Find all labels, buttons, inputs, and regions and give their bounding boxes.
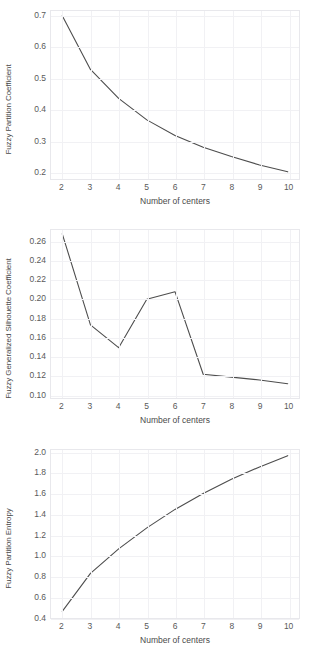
chart-panel-fuzzy-partition-entropy: Fuzzy Partition Entropy 0.40.60.81.01.21… [0, 439, 319, 658]
x-tick-label: 9 [258, 621, 263, 631]
gridline-vertical [119, 450, 120, 618]
x-tick-label: 6 [173, 401, 178, 411]
y-axis-tick-labels: 0.40.60.81.01.21.41.61.82.0 [16, 449, 48, 619]
gridline-vertical [204, 11, 205, 179]
chart-panel-fuzzy-partition-coefficient: Fuzzy Partition Coefficient 0.20.30.40.5… [0, 0, 319, 219]
gridline-vertical [261, 230, 262, 398]
gridline-vertical [148, 230, 149, 398]
y-tick-label: 0.8 [34, 571, 46, 581]
x-tick-label: 7 [201, 621, 206, 631]
y-tick-label: 0.24 [29, 255, 46, 265]
y-tick-label: 0.14 [29, 351, 46, 361]
y-tick-label: 1.0 [34, 550, 46, 560]
gridline-vertical [176, 450, 177, 618]
gridline-vertical [91, 11, 92, 179]
gridline-vertical [233, 11, 234, 179]
x-tick-label: 4 [116, 621, 121, 631]
x-tick-label: 2 [59, 621, 64, 631]
y-tick-label: 1.4 [34, 509, 46, 519]
gridline-vertical [62, 230, 63, 398]
y-tick-label: 0.3 [34, 136, 46, 146]
gridline-vertical [91, 230, 92, 398]
x-tick-label: 8 [229, 621, 234, 631]
gridline-vertical [204, 230, 205, 398]
x-tick-label: 5 [144, 621, 149, 631]
y-tick-label: 0.12 [29, 370, 46, 380]
gridline-vertical [62, 11, 63, 179]
gridline-vertical [290, 230, 291, 398]
y-axis-title: Fuzzy Generalized Silhouette Coefficient [0, 219, 16, 438]
y-tick-label: 0.16 [29, 332, 46, 342]
gridline-vertical [290, 450, 291, 618]
gridline-vertical [62, 450, 63, 618]
series-polyline [62, 455, 287, 611]
gridline-vertical [233, 230, 234, 398]
x-tick-label: 6 [173, 182, 178, 192]
y-tick-label: 0.4 [34, 613, 46, 623]
x-axis-tick-labels: 2345678910 [50, 401, 300, 415]
y-tick-label: 0.2 [34, 167, 46, 177]
x-tick-label: 2 [59, 401, 64, 411]
x-tick-label: 3 [87, 182, 92, 192]
y-tick-label: 0.10 [29, 390, 46, 400]
x-tick-label: 9 [258, 401, 263, 411]
x-tick-label: 8 [229, 401, 234, 411]
y-tick-label: 0.4 [34, 104, 46, 114]
x-tick-label: 7 [201, 182, 206, 192]
gridline-vertical [148, 450, 149, 618]
y-tick-label: 0.6 [34, 41, 46, 51]
y-tick-label: 0.18 [29, 313, 46, 323]
x-axis-title: Number of centers [50, 635, 300, 645]
figure-stacked-line-charts: Fuzzy Partition Coefficient 0.20.30.40.5… [0, 0, 319, 658]
y-tick-label: 2.0 [34, 447, 46, 457]
plot-area [50, 449, 300, 619]
gridline-vertical [176, 230, 177, 398]
x-tick-label: 10 [284, 401, 293, 411]
gridline-horizontal [51, 619, 299, 620]
gridline-vertical [261, 450, 262, 618]
x-tick-label: 4 [116, 401, 121, 411]
y-tick-label: 1.2 [34, 530, 46, 540]
gridline-vertical [261, 11, 262, 179]
x-tick-label: 10 [284, 621, 293, 631]
y-axis-title: Fuzzy Partition Entropy [0, 439, 16, 658]
chart-panel-fuzzy-generalized-silhouette-coefficient: Fuzzy Generalized Silhouette Coefficient… [0, 219, 319, 438]
y-axis-title: Fuzzy Partition Coefficient [0, 0, 16, 219]
x-tick-label: 3 [87, 621, 92, 631]
x-tick-label: 5 [144, 401, 149, 411]
x-tick-label: 10 [284, 182, 293, 192]
x-tick-label: 7 [201, 401, 206, 411]
y-tick-label: 0.5 [34, 73, 46, 83]
x-tick-label: 9 [258, 182, 263, 192]
gridline-vertical [148, 11, 149, 179]
y-axis-tick-labels: 0.100.120.140.160.180.200.220.240.26 [16, 229, 48, 399]
y-tick-label: 0.26 [29, 236, 46, 246]
x-tick-label: 5 [144, 182, 149, 192]
gridline-vertical [91, 450, 92, 618]
y-axis-tick-labels: 0.20.30.40.50.60.7 [16, 10, 48, 180]
y-tick-label: 0.7 [34, 10, 46, 20]
series-polyline [62, 234, 287, 384]
gridline-vertical [233, 450, 234, 618]
gridline-vertical [119, 11, 120, 179]
gridline-vertical [290, 11, 291, 179]
y-tick-label: 1.8 [34, 467, 46, 477]
x-axis-title: Number of centers [50, 415, 300, 425]
gridline-vertical [119, 230, 120, 398]
plot-area [50, 229, 300, 399]
x-tick-label: 6 [173, 621, 178, 631]
x-tick-label: 3 [87, 401, 92, 411]
x-tick-label: 2 [59, 182, 64, 192]
y-tick-label: 0.6 [34, 592, 46, 602]
plot-area [50, 10, 300, 180]
x-axis-title: Number of centers [50, 196, 300, 206]
x-axis-tick-labels: 2345678910 [50, 182, 300, 196]
x-axis-tick-labels: 2345678910 [50, 621, 300, 635]
y-tick-label: 1.6 [34, 488, 46, 498]
series-polyline [62, 16, 287, 172]
gridline-vertical [204, 450, 205, 618]
y-tick-label: 0.22 [29, 274, 46, 284]
x-tick-label: 4 [116, 182, 121, 192]
x-tick-label: 8 [229, 182, 234, 192]
y-tick-label: 0.20 [29, 293, 46, 303]
